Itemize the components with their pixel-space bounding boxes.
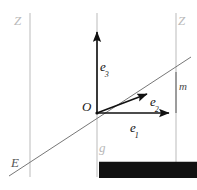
geometry-figure: Z Z g E m O e3 e2 e1 bbox=[0, 0, 197, 190]
vector-e2-subscript: 2 bbox=[155, 105, 159, 114]
label-plane-left: Z bbox=[14, 14, 21, 27]
vector-arrow-bar-icon bbox=[99, 57, 110, 62]
label-plane-right: Z bbox=[178, 14, 185, 27]
vector-arrow-bar-icon bbox=[149, 92, 160, 97]
vector-e3-subscript: 3 bbox=[105, 70, 109, 79]
label-line-E: E bbox=[11, 156, 19, 169]
vector-e1-subscript: 1 bbox=[135, 131, 139, 140]
vector-arrow-bar-icon bbox=[129, 118, 140, 123]
label-origin: O bbox=[82, 100, 91, 113]
label-vector-e2: e2 bbox=[150, 93, 160, 112]
label-vector-e1: e1 bbox=[130, 119, 140, 138]
label-vector-e3: e3 bbox=[100, 58, 110, 77]
